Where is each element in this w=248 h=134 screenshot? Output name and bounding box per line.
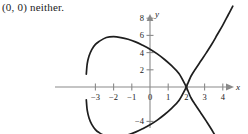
curve-branch-up-right [186, 6, 232, 87]
x-tick-label-4: 4 [221, 92, 226, 102]
y-tick-label--4: −4 [135, 116, 145, 126]
coordinate-plot-svg: −3−2−101234 −6−42468 x y [0, 0, 248, 134]
x-tick-label--1: −1 [127, 92, 136, 102]
axes-group [55, 14, 234, 128]
curve-curve-lower [86, 87, 186, 134]
y-axis-label: y [154, 9, 159, 19]
curve-curve-upper [86, 37, 186, 87]
x-tick-label-3: 3 [202, 92, 206, 102]
x-tick-label-0: 0 [148, 92, 152, 102]
y-axis-arrowhead [147, 14, 154, 21]
graph-plot: −3−2−101234 −6−42468 x y [0, 0, 248, 134]
y-tick-label-6: 6 [140, 30, 144, 40]
y-tick-label-4: 4 [140, 48, 145, 58]
x-tick-label-1: 1 [166, 92, 170, 102]
x-tick-label--2: −2 [109, 92, 118, 102]
x-axis-arrowhead [226, 84, 234, 91]
x-axis-label: x [235, 82, 240, 92]
y-axis-tick-labels: −6−42468 [135, 13, 145, 134]
x-tick-label--3: −3 [91, 92, 100, 102]
y-tick-label-8: 8 [140, 13, 144, 23]
x-axis-tick-labels: −3−2−101234 [91, 92, 226, 102]
figure-page: (0, 0) neither. −3−2−101234 −6−42468 x y [0, 0, 248, 134]
curve-group [86, 6, 233, 134]
y-tick-label-2: 2 [140, 65, 144, 75]
x-tick-label-2: 2 [184, 92, 188, 102]
